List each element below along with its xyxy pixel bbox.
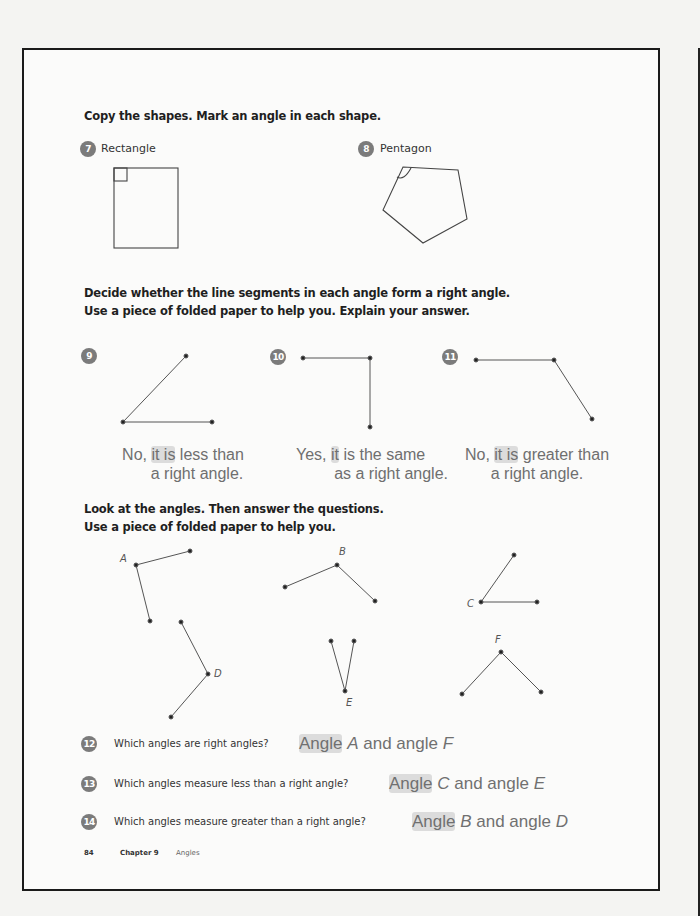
- right-angle-mark: [114, 168, 127, 181]
- answer-10: Yes, it is the same as a right angle.: [290, 445, 450, 483]
- chapter-label: Chapter 9: [120, 849, 159, 857]
- question-13-answer: Angle C and angle E: [389, 774, 545, 794]
- page-number: 84: [84, 849, 94, 857]
- label-d: D: [214, 668, 222, 679]
- angle-a-figure: [134, 549, 192, 623]
- rectangle-shape: [114, 168, 178, 248]
- label-c: C: [467, 598, 474, 609]
- question-14-answer: Angle B and angle D: [412, 812, 568, 832]
- answer-11-line1: No, it is greater than: [452, 445, 622, 464]
- answer-9-line1: No, it is less than: [108, 445, 258, 464]
- badge-14: 14: [81, 814, 97, 830]
- badge-10: 10: [270, 349, 286, 365]
- section3-heading-line2: Use a piece of folded paper to help you.: [84, 518, 336, 536]
- section2-heading-line1: Decide whether the line segments in each…: [84, 284, 510, 302]
- answer-10-line1: Yes, it is the same: [290, 445, 450, 464]
- angle-11-figure: [474, 358, 594, 421]
- pentagon-shape: [383, 167, 467, 243]
- answer-11: No, it is greater than a right angle.: [452, 445, 622, 483]
- angle-f-figure: [460, 650, 543, 696]
- angle-b-figure: [283, 563, 377, 603]
- badge-9: 9: [81, 348, 97, 364]
- section3-heading-line1: Look at the angles. Then answer the ques…: [84, 500, 384, 518]
- badge-11: 11: [442, 349, 458, 365]
- angle-d-figure: [169, 620, 210, 719]
- angle-e-figure: [329, 639, 356, 693]
- question-14-text: Which angles measure greater than a righ…: [114, 816, 366, 827]
- angle-10-figure: [301, 356, 372, 429]
- angle-9-figure: [121, 354, 214, 424]
- section2-heading-line2: Use a piece of folded paper to help you.…: [84, 302, 470, 320]
- answer-10-line2: as a right angle.: [290, 464, 450, 483]
- answer-11-line2: a right angle.: [452, 464, 622, 483]
- question-12-text: Which angles are right angles?: [114, 738, 268, 749]
- angle-c-figure: [479, 553, 539, 604]
- question-12-answer: Angle A and angle F: [299, 734, 453, 754]
- badge-12: 12: [81, 736, 97, 752]
- answer-9-line2: a right angle.: [108, 464, 258, 483]
- chapter-title: Angles: [176, 849, 200, 857]
- answer-9: No, it is less than a right angle.: [108, 445, 258, 483]
- label-b: B: [339, 546, 346, 557]
- label-e: E: [346, 697, 352, 708]
- label-f: F: [495, 634, 501, 645]
- label-a: A: [120, 553, 127, 564]
- question-13-text: Which angles measure less than a right a…: [114, 778, 348, 789]
- badge-13: 13: [81, 776, 97, 792]
